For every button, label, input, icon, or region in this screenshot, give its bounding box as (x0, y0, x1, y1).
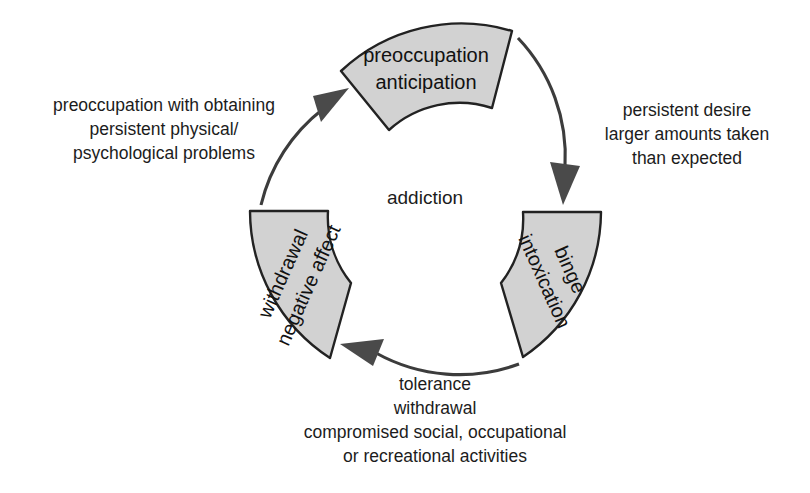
segment-preoccupation-line2: anticipation (375, 71, 476, 93)
arrow-binge-to-withdrawal (340, 339, 519, 375)
segment-preoccupation[interactable]: preoccupation anticipation (341, 24, 512, 130)
annotation-right: persistent desire larger amounts taken t… (576, 98, 798, 170)
arrow-preoccupation-to-binge-path (518, 38, 565, 167)
segment-preoccupation-line1: preoccupation (363, 44, 489, 66)
center-label-addiction: addiction (340, 186, 510, 210)
addiction-cycle-diagram: preoccupation anticipation binge intoxic… (0, 0, 810, 493)
annotation-bottom: tolerance withdrawal compromised social,… (200, 372, 670, 468)
segment-binge[interactable]: binge intoxication (501, 212, 601, 357)
annotation-left: preoccupation with obtaining persistent … (16, 93, 312, 165)
arrow-preoccupation-to-binge (518, 38, 580, 205)
arrow-binge-to-withdrawal-head (340, 339, 384, 366)
segment-withdrawal[interactable]: withdrawal negative affect (246, 209, 351, 358)
arrow-withdrawal-to-preoccupation-head (313, 88, 349, 122)
